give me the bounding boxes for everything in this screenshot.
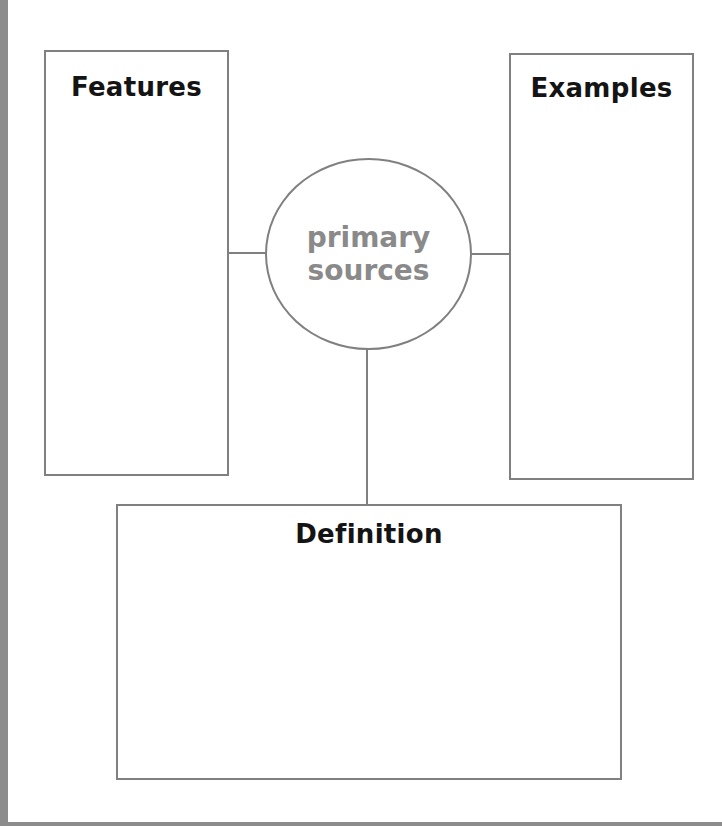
- page-edge-bottom: [0, 822, 722, 826]
- connector-features-circle: [228, 252, 266, 254]
- definition-box[interactable]: Definition: [116, 504, 622, 780]
- examples-title: Examples: [511, 73, 692, 103]
- examples-box[interactable]: Examples: [509, 53, 694, 480]
- page-edge-left: [0, 0, 8, 826]
- definition-title: Definition: [118, 519, 620, 549]
- center-topic-circle: primary sources: [265, 158, 472, 350]
- center-topic-line2: sources: [308, 254, 430, 287]
- connector-circle-examples: [471, 253, 510, 255]
- center-topic-line1: primary: [307, 221, 431, 254]
- connector-circle-definition: [366, 348, 368, 505]
- features-title: Features: [46, 72, 227, 102]
- features-box[interactable]: Features: [44, 50, 229, 476]
